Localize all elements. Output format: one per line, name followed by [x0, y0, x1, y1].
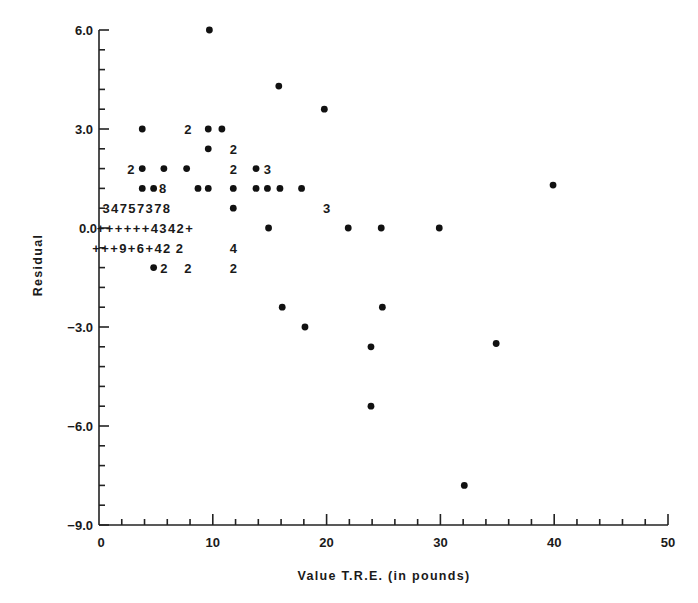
y-tick-label: 3.0 [75, 122, 93, 137]
data-point [205, 185, 212, 192]
data-point-count: 2 [230, 261, 237, 276]
y-tick-label: −3.0 [67, 320, 93, 335]
data-points: 22223834222 [127, 27, 556, 489]
data-point [206, 27, 213, 34]
data-point [378, 225, 385, 232]
count-row: + + + + + + 4 3 4 2 + [97, 221, 193, 236]
x-axis-title: Value T.R.E. (in pounds) [298, 569, 471, 583]
data-point-count: 2 [230, 162, 237, 177]
x-tick-label: 50 [661, 535, 675, 550]
data-point [253, 185, 260, 192]
data-point [368, 403, 375, 410]
data-point [150, 264, 157, 271]
data-point [230, 185, 237, 192]
data-point [368, 343, 375, 350]
data-point [195, 185, 202, 192]
data-point-count: 2 [184, 261, 191, 276]
x-tick-label: 40 [547, 535, 561, 550]
data-point-count: 2 [230, 142, 237, 157]
y-tick-label: 6.0 [75, 23, 93, 38]
data-point [461, 482, 468, 489]
data-point [253, 165, 260, 172]
data-point-count: 2 [184, 122, 191, 137]
y-tick-label: 0.0 [79, 221, 97, 236]
data-point [264, 185, 271, 192]
data-point [139, 165, 146, 172]
data-point-count: 8 [159, 181, 166, 196]
data-point [183, 165, 190, 172]
y-axis-title: Residual [31, 234, 45, 297]
data-point [230, 205, 237, 212]
data-point [436, 225, 443, 232]
count-row: 3 4 7 5 7 3 7 8 [102, 201, 169, 216]
data-point-count: 3 [323, 201, 330, 216]
data-point [321, 106, 328, 113]
x-tick-label: 10 [206, 535, 220, 550]
data-point [298, 185, 305, 192]
data-point [205, 145, 212, 152]
data-point [279, 304, 286, 311]
data-point [493, 340, 500, 347]
data-point [160, 165, 167, 172]
x-tick-label: 30 [433, 535, 447, 550]
data-point [379, 304, 386, 311]
data-point-count: 3 [264, 162, 271, 177]
y-tick-label: −6.0 [67, 419, 93, 434]
tick-labels: 6.03.00.0−3.0−6.0−9.001020304050 [67, 23, 675, 550]
count-row: + + + 9 + 6 + 4 2 2 [92, 241, 183, 256]
axes [99, 30, 668, 525]
residual-scatter-chart: 6.03.00.0−3.0−6.0−9.001020304050 3 4 7 5… [0, 0, 698, 603]
data-point [277, 185, 284, 192]
data-point [345, 225, 352, 232]
data-point-count: 4 [230, 241, 238, 256]
data-point [205, 126, 212, 133]
data-point-count: 2 [160, 261, 167, 276]
data-point [265, 225, 272, 232]
data-point [302, 324, 309, 331]
y-tick-label: −9.0 [67, 518, 93, 533]
x-tick-label: 20 [319, 535, 333, 550]
data-point [150, 185, 157, 192]
data-point-count: 2 [127, 162, 134, 177]
data-point [275, 83, 282, 90]
data-point [550, 182, 557, 189]
x-tick-label: 0 [97, 535, 104, 550]
dense-count-rows: 3 4 7 5 7 3 7 8+ + + + + + 4 3 4 2 ++ + … [92, 201, 193, 256]
data-point [139, 185, 146, 192]
data-point [139, 126, 146, 133]
data-point [219, 126, 226, 133]
